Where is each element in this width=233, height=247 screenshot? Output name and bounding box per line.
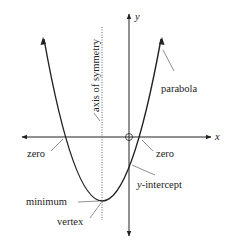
- pointer-parabola: [163, 50, 174, 71]
- y-intercept-label: y-intercept: [136, 179, 182, 190]
- pointer-minimum: [78, 201, 99, 202]
- y-intercept-rest: -intercept: [142, 179, 182, 190]
- y-axis-label: y: [134, 11, 140, 22]
- pointer-y-intercept: [132, 165, 155, 175]
- parabola-label: parabola: [161, 83, 197, 94]
- pointer-vertex: [90, 203, 101, 218]
- parabola-curve: [44, 39, 161, 201]
- parabola-arrow-right: [159, 37, 165, 45]
- minimum-label: minimum: [26, 196, 67, 207]
- parabola-arrow-left: [41, 37, 47, 45]
- x-axis-label: x: [214, 131, 220, 142]
- zero-left-label: zero: [27, 148, 45, 159]
- vertex-label: vertex: [57, 216, 84, 227]
- pointer-zero-left: [51, 139, 63, 151]
- axis-of-symmetry-label: axis of symmetry: [90, 38, 101, 112]
- zero-right-label: zero: [156, 148, 174, 159]
- pointer-zero-right: [142, 140, 153, 151]
- parabola-diagram: y x axis of symmetry parabola zero zero …: [0, 0, 233, 247]
- pointer-axis-of-symmetry: [94, 113, 100, 121]
